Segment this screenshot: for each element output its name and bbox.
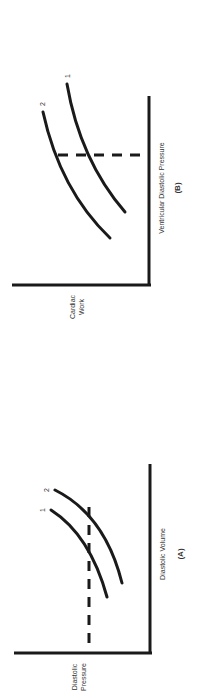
panel-b-curve-2-label: 2: [39, 102, 46, 106]
figure: 2 1 Ventricular Diastolic Pressure (B) C…: [0, 0, 198, 697]
panel-a: 1 2 Diastolic Volume (A) Diastolic Press…: [14, 464, 185, 691]
panel-a-caption: (A): [176, 548, 185, 559]
panel-b-y-axis-label-line1: Cardiac: [69, 294, 76, 319]
panel-b-x-axis-label: Ventricular Diastolic Pressure: [158, 142, 165, 234]
panel-a-curve-2-label: 2: [43, 488, 50, 492]
panel-b-y-axis-label-line2: Work: [78, 298, 85, 315]
panel-a-curve-1-label: 1: [39, 508, 46, 512]
panel-a-curve-1: [51, 510, 107, 597]
panel-a-y-axis-label-line1: Diastolic: [71, 663, 78, 690]
panel-a-x-axis-label: Diastolic Volume: [159, 528, 166, 580]
panel-b-caption: (B): [173, 182, 182, 193]
panel-b: 2 1 Ventricular Diastolic Pressure (B) C…: [12, 74, 182, 319]
panel-b-curve-1-label: 1: [64, 74, 71, 78]
panel-a-y-axis-label-line2: Pressure: [80, 663, 87, 691]
